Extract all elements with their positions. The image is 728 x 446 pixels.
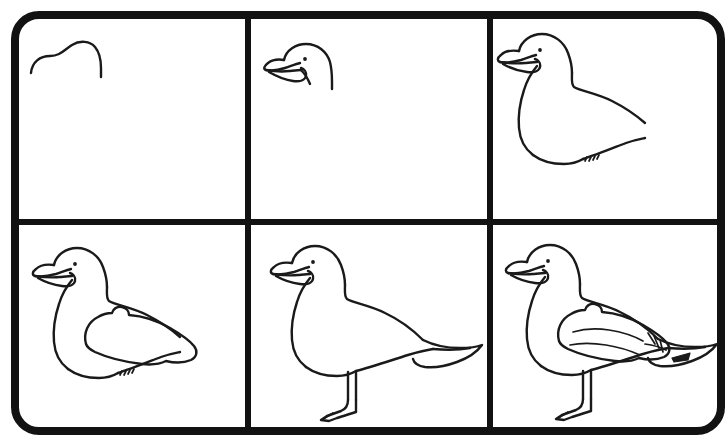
beak-gape-line [273,274,310,275]
beak-gape-line [508,273,545,274]
beak-gape-line [500,62,537,63]
beak-gape-line [35,276,72,277]
eye-dot [546,259,550,263]
tutorial-illustration [0,0,728,446]
eye-dot [311,260,315,264]
drawing-tutorial-page: How to Draw a Seagull [0,0,728,446]
eye-dot [538,48,542,52]
eye-dot [303,57,307,61]
beak-gape-line [266,70,301,71]
eye-dot [73,262,77,266]
